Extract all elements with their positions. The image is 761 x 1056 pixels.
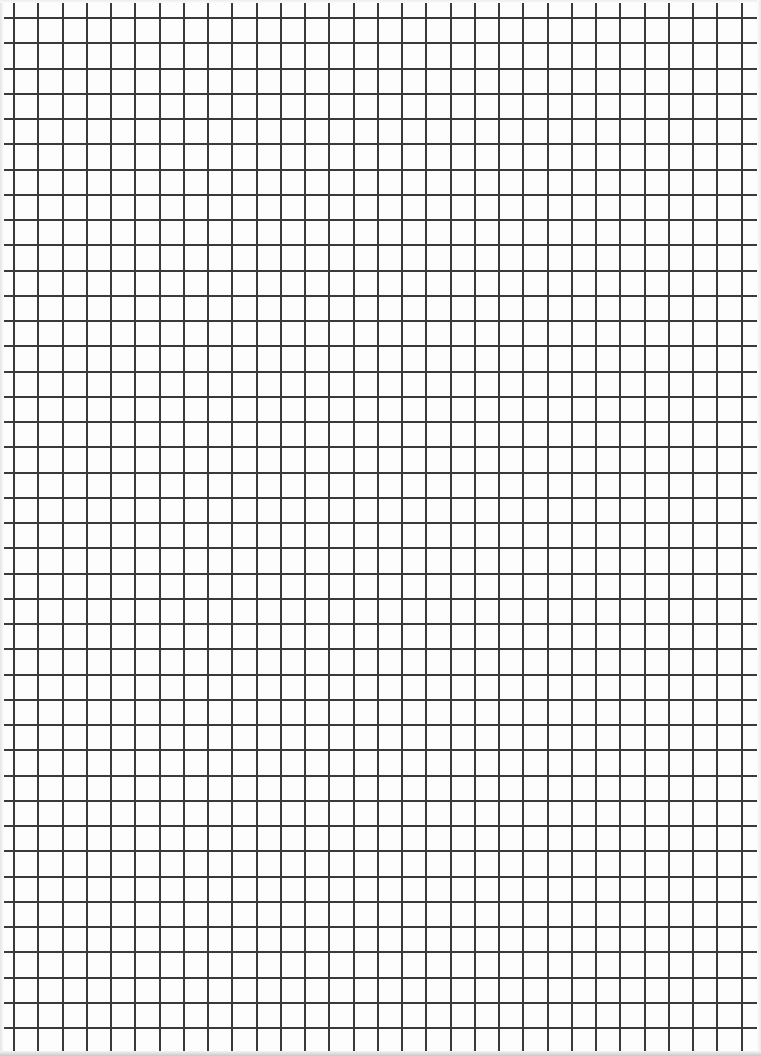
paper-edge-bottom (0, 1051, 761, 1056)
paper-edge-left (0, 0, 4, 1056)
graph-paper-sheet (0, 0, 761, 1056)
grid-lines (0, 0, 761, 1056)
paper-edge-top (0, 0, 761, 3)
paper-edge-right (757, 0, 761, 1056)
